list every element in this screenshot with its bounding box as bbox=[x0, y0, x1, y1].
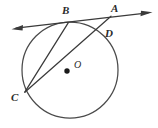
point-label-D: D bbox=[104, 27, 113, 39]
point-label-C: C bbox=[11, 91, 19, 103]
chord-c-to-b bbox=[25, 23, 68, 92]
circle-O bbox=[22, 22, 118, 118]
tangent-left-arrowhead bbox=[12, 25, 24, 31]
center-point-dot bbox=[64, 68, 69, 73]
point-label-A: A bbox=[110, 2, 118, 14]
point-label-B: B bbox=[61, 4, 69, 16]
tangent-right-arrowhead bbox=[141, 11, 153, 16]
geometry-canvas: O A B C D bbox=[0, 0, 158, 128]
secant-c-through-d-to-a bbox=[25, 16, 111, 92]
tangent-line-segment bbox=[16, 13, 148, 28]
geometry-figure: O A B C D bbox=[0, 0, 158, 128]
tangent-line bbox=[12, 11, 153, 31]
center-label-O: O bbox=[74, 59, 81, 70]
